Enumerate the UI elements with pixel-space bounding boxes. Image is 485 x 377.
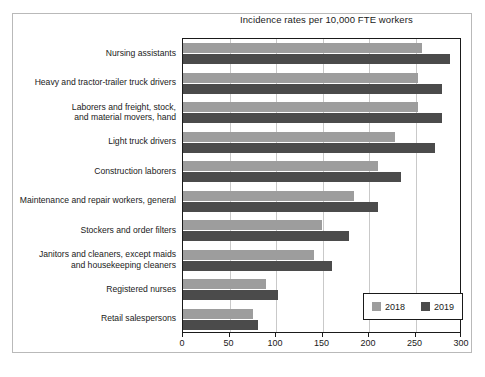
plot-area bbox=[182, 38, 461, 333]
bar-group bbox=[183, 132, 460, 153]
category-label: Maintenance and repair workers, general bbox=[20, 195, 176, 206]
axis-tick-label-300: 300 bbox=[453, 338, 468, 348]
legend-label-2018: 2018 bbox=[385, 302, 405, 312]
bar-2019 bbox=[183, 143, 435, 153]
bar-2018 bbox=[183, 309, 253, 319]
category-label: Janitors and cleaners, except maidsand h… bbox=[39, 249, 176, 270]
axis-tick-label-150: 150 bbox=[314, 338, 329, 348]
bar-group bbox=[183, 102, 460, 123]
bar-2019 bbox=[183, 290, 278, 300]
category-label-line: Registered nurses bbox=[106, 284, 176, 295]
category-label: Stockers and order filters bbox=[80, 225, 176, 236]
category-label-line: Retail salespersons bbox=[101, 313, 176, 324]
bar-2018 bbox=[183, 220, 322, 230]
axis-tick-label-50: 50 bbox=[223, 338, 233, 348]
legend-swatch-2018 bbox=[372, 302, 381, 311]
bar-2018 bbox=[183, 279, 266, 289]
category-label-line: Heavy and tractor-trailer truck drivers bbox=[35, 77, 176, 88]
category-label-line: Maintenance and repair workers, general bbox=[20, 195, 176, 206]
category-label-line: Construction laborers bbox=[94, 166, 176, 177]
axis-tick-250 bbox=[415, 333, 416, 337]
category-label: Retail salespersons bbox=[101, 313, 176, 324]
axis-tick-300 bbox=[460, 333, 461, 337]
category-axis-labels: Nursing assistantsHeavy and tractor-trai… bbox=[0, 38, 176, 333]
value-axis: 050100150200250300 bbox=[182, 333, 461, 355]
axis-tick-0 bbox=[182, 333, 183, 337]
legend-label-2019: 2019 bbox=[434, 302, 454, 312]
category-label: Registered nurses bbox=[106, 284, 176, 295]
axis-tick-label-100: 100 bbox=[267, 338, 282, 348]
bar-2018 bbox=[183, 191, 354, 201]
axis-tick-50 bbox=[229, 333, 230, 337]
bar-2018 bbox=[183, 102, 418, 112]
bar-2018 bbox=[183, 132, 395, 142]
bar-group bbox=[183, 161, 460, 182]
category-label: Construction laborers bbox=[94, 166, 176, 177]
bar-2018 bbox=[183, 250, 314, 260]
bar-group bbox=[183, 220, 460, 241]
bar-2018 bbox=[183, 73, 418, 83]
axis-tick-label-0: 0 bbox=[179, 338, 184, 348]
bar-2018 bbox=[183, 161, 378, 171]
chart-title: Incidence rates per 10,000 FTE workers bbox=[240, 14, 413, 25]
category-label: Nursing assistants bbox=[106, 48, 176, 59]
bar-group bbox=[183, 191, 460, 212]
legend-swatch-2019 bbox=[421, 302, 430, 311]
category-label-line: Light truck drivers bbox=[108, 136, 176, 147]
axis-tick-150 bbox=[322, 333, 323, 337]
category-label-line: Laborers and freight, stock, bbox=[72, 102, 176, 113]
bar-group bbox=[183, 43, 460, 64]
bar-2019 bbox=[183, 320, 258, 330]
category-label-line: Nursing assistants bbox=[106, 48, 176, 59]
category-label: Heavy and tractor-trailer truck drivers bbox=[35, 77, 176, 88]
bar-2018 bbox=[183, 43, 422, 53]
category-label-line: and housekeeping cleaners bbox=[39, 260, 176, 271]
axis-tick-label-200: 200 bbox=[360, 338, 375, 348]
category-label-line: Stockers and order filters bbox=[80, 225, 176, 236]
bar-rows bbox=[183, 39, 460, 332]
chart-screenshot: Incidence rates per 10,000 FTE workers N… bbox=[0, 0, 485, 377]
bar-2019 bbox=[183, 202, 378, 212]
category-label: Light truck drivers bbox=[108, 136, 176, 147]
axis-tick-200 bbox=[368, 333, 369, 337]
legend-item-2019: 2019 bbox=[421, 302, 454, 312]
chart-legend: 2018 2019 bbox=[363, 293, 463, 320]
bar-2019 bbox=[183, 113, 442, 123]
legend-item-2018: 2018 bbox=[372, 302, 405, 312]
category-label-line: Janitors and cleaners, except maids bbox=[39, 249, 176, 260]
category-label-line: and material movers, hand bbox=[72, 112, 176, 123]
bar-2019 bbox=[183, 84, 442, 94]
bar-2019 bbox=[183, 172, 401, 182]
bar-2019 bbox=[183, 231, 349, 241]
bar-2019 bbox=[183, 261, 332, 271]
bar-group bbox=[183, 250, 460, 271]
category-label: Laborers and freight, stock,and material… bbox=[72, 102, 176, 123]
axis-tick-100 bbox=[275, 333, 276, 337]
bar-2019 bbox=[183, 54, 450, 64]
bar-group bbox=[183, 73, 460, 94]
axis-tick-label-250: 250 bbox=[407, 338, 422, 348]
